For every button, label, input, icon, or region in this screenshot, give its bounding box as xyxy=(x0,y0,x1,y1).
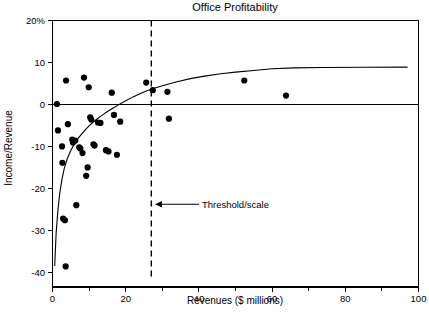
chart-title: Office Profitability xyxy=(192,1,278,13)
data-point-28 xyxy=(109,90,115,96)
office-profitability-scatter-chart: Office Profitability 20%100-10-20-30-40 … xyxy=(0,0,429,318)
data-point-25 xyxy=(97,120,103,126)
x-tick-label-4: 80 xyxy=(340,293,351,304)
data-point-29 xyxy=(111,112,117,118)
data-point-34 xyxy=(164,89,170,95)
data-point-5 xyxy=(62,217,68,223)
y-tick-label-3: -10 xyxy=(31,141,45,152)
annotation-label-0: Threshold/scale xyxy=(202,199,269,210)
data-point-35 xyxy=(166,116,172,122)
data-point-15 xyxy=(79,150,85,156)
x-axis-title: Revenues ($ millions) xyxy=(187,295,283,306)
data-point-37 xyxy=(283,93,289,99)
data-point-7 xyxy=(63,77,69,83)
data-point-30 xyxy=(114,152,120,158)
data-point-18 xyxy=(85,164,91,170)
data-point-19 xyxy=(86,84,92,90)
y-tick-label-4: -20 xyxy=(31,183,45,194)
data-point-3 xyxy=(59,160,65,166)
y-tick-label-5: -30 xyxy=(31,225,45,236)
data-point-11 xyxy=(72,137,78,143)
data-point-0 xyxy=(54,101,60,107)
data-point-6 xyxy=(63,263,69,269)
data-point-27 xyxy=(105,148,111,154)
data-point-1 xyxy=(55,127,61,133)
data-point-16 xyxy=(81,74,87,80)
data-point-32 xyxy=(143,80,149,86)
chart-background xyxy=(0,0,429,318)
y-tick-label-1: 10 xyxy=(34,57,45,68)
chart-figure: Office Profitability 20%100-10-20-30-40 … xyxy=(0,0,429,318)
y-axis-title: Income/Revenue xyxy=(3,110,14,186)
data-point-23 xyxy=(91,142,97,148)
data-point-12 xyxy=(73,202,79,208)
data-point-21 xyxy=(88,116,94,122)
data-point-33 xyxy=(150,87,156,93)
data-point-36 xyxy=(241,77,247,83)
x-tick-label-0: 0 xyxy=(50,293,55,304)
x-tick-label-5: 100 xyxy=(411,293,427,304)
data-point-2 xyxy=(59,143,65,149)
y-tick-label-6: -40 xyxy=(31,267,45,278)
data-point-31 xyxy=(117,119,123,125)
x-tick-label-1: 20 xyxy=(120,293,131,304)
y-tick-label-0: 20% xyxy=(26,15,46,26)
data-point-8 xyxy=(65,121,71,127)
data-point-17 xyxy=(83,173,89,179)
y-tick-label-2: 0 xyxy=(40,99,45,110)
